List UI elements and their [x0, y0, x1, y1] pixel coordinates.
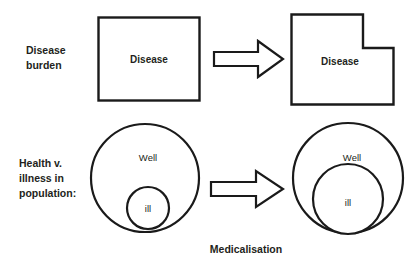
population-circle-after-outer-label: Well — [343, 152, 361, 163]
disease-burden-label-line-1: Disease — [26, 44, 66, 56]
diagram-canvas: Disease burden Disease Disease Health v.… — [0, 0, 418, 266]
population-circle-before-outer-label: Well — [139, 152, 157, 163]
diagram-caption: Medicalisation — [210, 243, 282, 255]
health-illness-label-line-1: Health v. — [19, 157, 62, 169]
health-illness-label-line-2: illness in — [19, 172, 64, 184]
health-illness-row-label: Health v. illness in population: — [19, 157, 76, 199]
medicalisation-diagram: Disease burden Disease Disease Health v.… — [0, 0, 418, 266]
disease-burden-label-line-2: burden — [26, 59, 62, 71]
population-circle-after-inner-label: ill — [345, 197, 351, 208]
disease-box-after-label: Disease — [321, 56, 359, 67]
disease-box-before-label: Disease — [130, 54, 168, 65]
health-illness-label-line-3: population: — [19, 187, 76, 199]
right-arrow-icon-bottom — [211, 171, 283, 207]
right-arrow-icon-top — [214, 41, 283, 77]
disease-burden-row-label: Disease burden — [26, 44, 66, 71]
population-circle-before-inner-label: ill — [145, 203, 151, 214]
